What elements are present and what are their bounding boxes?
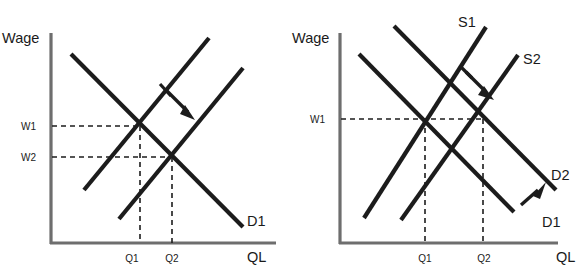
quantity-tick-label-q2: Q2: [165, 253, 179, 264]
wage-level-label-w2: W2: [21, 152, 36, 163]
wage-level-label-w1: W1: [310, 114, 325, 125]
curve-label-d2: D2: [551, 167, 570, 183]
x-axis-label: QL: [247, 249, 266, 265]
economics-diagram-figure: Wage QL W1 W2 Q1 Q2 D1: [0, 0, 581, 272]
y-axis-label: Wage: [292, 30, 329, 46]
curve-label-s2: S2: [523, 51, 541, 67]
demand-curve-d1: [71, 54, 243, 227]
quantity-tick-label-q1: Q1: [125, 253, 139, 264]
curve-label-d1: D1: [542, 214, 561, 230]
right-panel-svg: Wage QL W1: [290, 0, 581, 272]
labor-supply-and-demand-increase-panel: Wage QL W1: [290, 0, 581, 272]
supply-curve-s2: [119, 68, 243, 219]
wage-level-label-w1: W1: [21, 121, 36, 132]
y-axis-label: Wage: [2, 30, 39, 46]
labor-supply-increase-panel: Wage QL W1 W2 Q1 Q2 D1: [0, 0, 290, 272]
curve-label-s1: S1: [458, 14, 476, 30]
demand-shift-arrow: [521, 190, 538, 205]
curve-label-d1: D1: [247, 213, 266, 229]
quantity-tick-label-q1: Q1: [418, 253, 432, 264]
x-axis-label: QL: [556, 249, 575, 265]
left-panel-svg: Wage QL W1 W2 Q1 Q2 D1: [0, 0, 290, 272]
quantity-tick-label-q2: Q2: [477, 253, 491, 264]
